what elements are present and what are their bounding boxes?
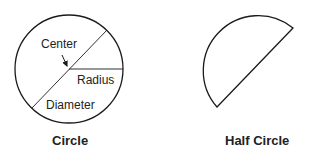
circle-caption: Circle [52,134,88,147]
half-circle-figure [203,16,293,107]
center-arrow-icon [62,55,67,66]
diameter-label: Diameter [46,99,95,111]
half-circle-caption: Half Circle [225,134,289,147]
radius-label: Radius [77,74,114,86]
half-circle-outline [203,16,293,107]
center-label: Center [41,38,77,50]
